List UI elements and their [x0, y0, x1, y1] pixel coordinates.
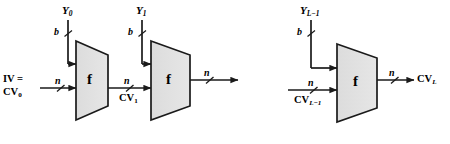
- label-message-block-1: Y1: [136, 5, 146, 18]
- label-iv-equals: IV =: [3, 74, 23, 85]
- label-bitwidth-n-output: n: [389, 68, 395, 78]
- label-message-block-L: YL−1: [300, 5, 320, 18]
- label-yL-sub: L−1: [307, 9, 320, 18]
- label-y0-sub: 0: [69, 9, 73, 18]
- stage1-message-path: [139, 20, 152, 64]
- label-cv1-base: CV: [119, 92, 134, 103]
- label-cv0-sub: 0: [18, 91, 22, 99]
- label-message-block-0: Y0: [62, 5, 72, 18]
- stageL-output-path: [377, 77, 414, 84]
- label-y1-base: Y: [136, 4, 143, 16]
- block-label-f-L: f: [353, 74, 358, 89]
- stageL-message-path: [308, 20, 338, 68]
- label-yL-base: Y: [300, 4, 307, 16]
- label-bitwidth-b-0: b: [54, 27, 59, 37]
- label-bitwidth-n-input-L: n: [308, 78, 314, 88]
- label-cvLm1-base: CV: [294, 94, 309, 105]
- label-bitwidth-n-chain-1: n: [124, 76, 130, 86]
- label-cvLm1-sub: L−1: [309, 99, 321, 107]
- compression-function-chain-diagram: Y0 b n IV = CV0 f n CV1 Y1 b f n YL−1 b …: [0, 0, 450, 144]
- block-label-f-0: f: [87, 72, 92, 87]
- label-cvL-base: CV: [417, 73, 432, 84]
- label-cv1: CV1: [119, 93, 138, 105]
- label-cv-L-minus-1: CVL−1: [294, 95, 321, 107]
- label-cv0-base: CV: [3, 86, 18, 97]
- label-cv-L: CVL: [417, 74, 437, 86]
- label-cvL-sub: L: [432, 78, 436, 86]
- label-y0-base: Y: [62, 4, 69, 16]
- label-bitwidth-b-L: b: [297, 27, 302, 37]
- block-label-f-1: f: [166, 72, 171, 87]
- label-bitwidth-n-input-0: n: [55, 76, 61, 86]
- stage0-message-path: [65, 20, 77, 64]
- label-bitwidth-b-1: b: [128, 27, 133, 37]
- compression-block-f0: [76, 41, 108, 120]
- label-cv0: CV0: [3, 87, 22, 99]
- label-y1-sub: 1: [143, 9, 147, 18]
- diagram-canvas: [0, 0, 450, 144]
- label-bitwidth-n-chain-2: n: [204, 68, 210, 78]
- stage1-output-path: [190, 77, 238, 84]
- label-cv1-sub: 1: [134, 97, 138, 105]
